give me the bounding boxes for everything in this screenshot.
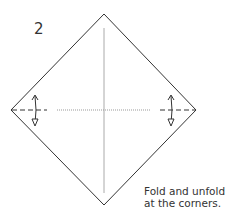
instruction-caption: Fold and unfold at the corners. [144,185,233,209]
origami-step-diagram: 2 Fold and unfold at the corners. [0,0,233,218]
